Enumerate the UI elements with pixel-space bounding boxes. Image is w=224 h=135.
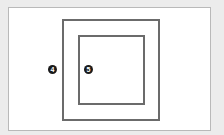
callout-marker-5: 5 [84, 65, 93, 74]
callout-marker-4: 4 [48, 65, 57, 74]
